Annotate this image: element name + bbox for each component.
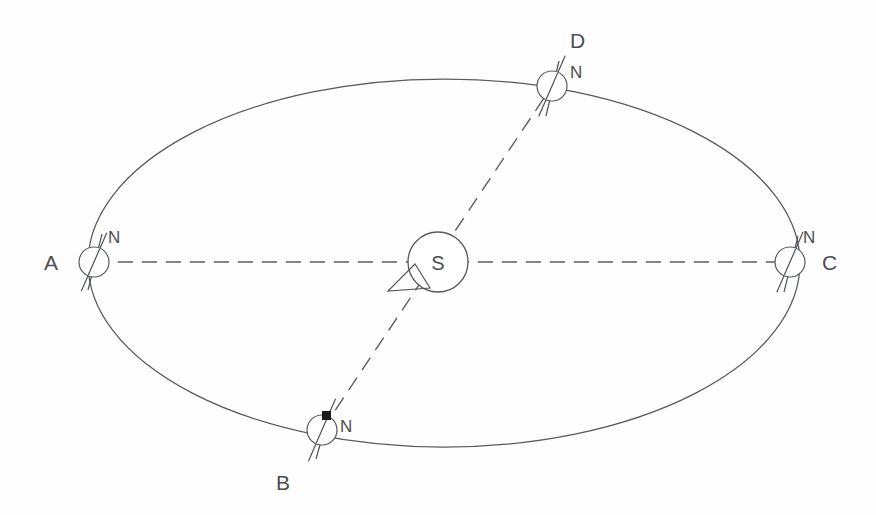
position-label-b: B (276, 471, 290, 494)
position-label-a: A (44, 251, 58, 274)
planet-position-c: N C (775, 228, 837, 292)
planet-position-b: N B (276, 399, 352, 494)
pole-label-d: N (570, 63, 582, 82)
planet-position-d: N D (537, 29, 585, 116)
orbit-diagram-svg: S N A N B N C (0, 0, 876, 515)
pole-label-a: N (108, 228, 120, 247)
pole-label-b: N (340, 417, 352, 436)
sun-body: S (408, 232, 468, 292)
position-label-c: C (822, 251, 837, 274)
orbit-diagram-canvas: S N A N B N C (0, 0, 876, 515)
north-pole-marker-b (322, 411, 331, 420)
planet-position-a: N A (44, 228, 120, 291)
sun-label: S (431, 252, 444, 274)
position-label-d: D (570, 29, 585, 52)
pole-label-c: N (803, 228, 815, 247)
